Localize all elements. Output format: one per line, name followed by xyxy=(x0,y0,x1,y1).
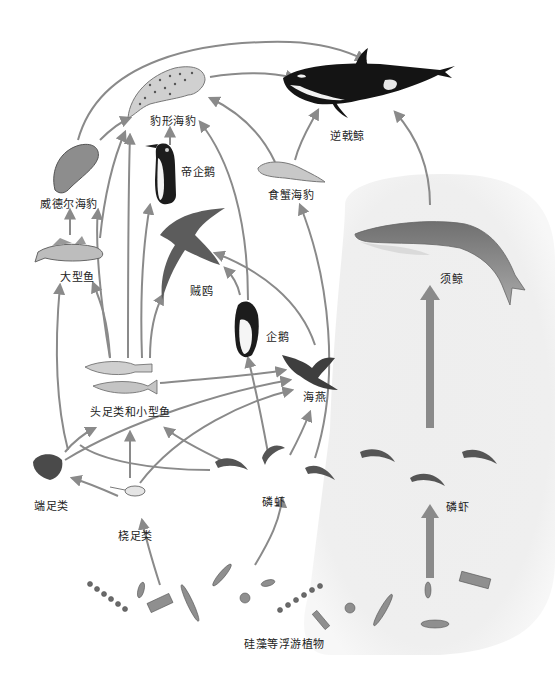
arrow-crabeater-to-orca xyxy=(295,110,318,160)
label-leopard-seal: 豹形海豹 xyxy=(150,112,196,128)
arrow-penguin-to-skua xyxy=(225,268,240,295)
label-krill-right: 磷虾 xyxy=(446,498,469,514)
arrow-krill-to-crabeater xyxy=(300,205,329,458)
arrow-leopard-to-orca xyxy=(210,73,295,78)
amphipod-illustration xyxy=(33,454,62,480)
orca-illustration xyxy=(283,48,455,118)
large-fish-illustration xyxy=(35,236,103,262)
arrow-amphipods-to-squid xyxy=(65,428,95,452)
cephalopods-small-fish-illustration xyxy=(85,361,157,394)
label-cephalopods-small-fish: 头足类和小型鱼 xyxy=(90,403,171,419)
arrow-squid-to-skua xyxy=(150,295,163,358)
arrow-weddell-to-leopard xyxy=(100,118,130,140)
leopard-seal-illustration xyxy=(128,67,205,118)
label-copepods: 桡足类 xyxy=(118,527,153,543)
label-skua: 贼鸥 xyxy=(190,282,213,298)
arrow-amphipods-to-large-fish xyxy=(57,285,68,450)
label-orca: 逆戟鲸 xyxy=(330,127,365,143)
arrow-krill-to-petrel xyxy=(290,412,310,455)
label-emperor-penguin: 帝企鹅 xyxy=(181,163,216,179)
arrow-petrel-to-skua xyxy=(215,253,315,345)
arrow-squid-to-leopard-1 xyxy=(128,135,130,358)
crabeater-seal-illustration xyxy=(258,162,325,182)
label-amphipods: 端足类 xyxy=(34,497,69,513)
label-krill-left: 磷虾 xyxy=(262,493,285,509)
emperor-penguin-illustration xyxy=(145,144,176,205)
weddell-seal-illustration xyxy=(54,144,99,193)
arrow-krill-to-amphipods-cross xyxy=(80,445,210,470)
label-phytoplankton: 硅藻等浮游植物 xyxy=(244,635,325,651)
label-crabeater-seal: 食蟹海豹 xyxy=(268,186,314,202)
label-weddell-seal: 威德尔海豹 xyxy=(40,195,98,211)
label-baleen-whale: 须鲸 xyxy=(440,270,463,286)
adelie-penguin-illustration xyxy=(235,302,259,358)
arrow-squid-to-petrel xyxy=(160,370,285,383)
label-petrel: 海燕 xyxy=(303,388,326,404)
arrow-squid-to-emperor xyxy=(141,205,150,358)
label-large-fish: 大型鱼 xyxy=(60,268,95,284)
label-penguin: 企鹅 xyxy=(266,328,289,344)
arrow-large-fish-to-leopard xyxy=(100,132,125,238)
antarctic-food-web-diagram: 逆戟鲸 豹形海豹 帝企鹅 威德尔海豹 食蟹海豹 大型鱼 贼鸥 企鹅 须鲸 头足类… xyxy=(0,0,560,680)
